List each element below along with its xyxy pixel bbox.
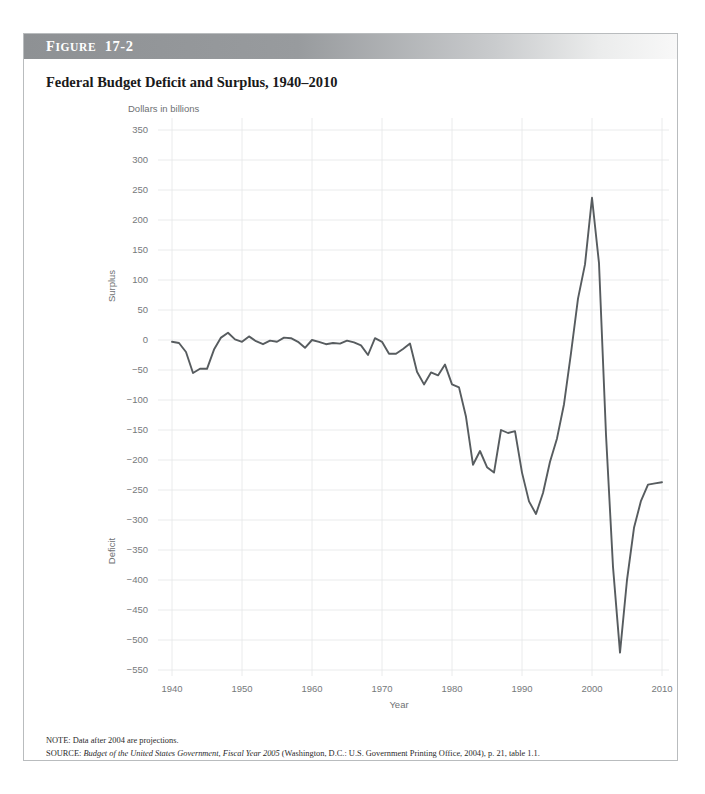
source-title: Budget of the United States Government, … <box>83 749 279 758</box>
source-rest: (Washington, D.C.: U.S. Government Print… <box>280 749 540 758</box>
x-tick-label: 1950 <box>231 683 252 694</box>
y-tick-label: −200 <box>127 454 148 465</box>
y-tick-label: −450 <box>127 604 148 615</box>
y-tick-label: −500 <box>127 634 148 645</box>
y-tick-label: 300 <box>132 154 148 165</box>
x-tick-label: 1990 <box>511 683 532 694</box>
figure-footnotes: NOTE: Data after 2004 are projections. S… <box>46 734 656 760</box>
y-tick-label: 350 <box>132 124 148 135</box>
vertical-gridlines <box>172 118 662 676</box>
figure-word-igure: IGURE <box>55 41 96 53</box>
x-tick-label: 2000 <box>581 683 602 694</box>
x-axis-tick-labels: 19401950196019701980199020002010 <box>161 683 672 694</box>
y-tick-label: 200 <box>132 214 148 225</box>
x-axis-title: Year <box>389 699 408 710</box>
x-tick-label: 1970 <box>371 683 392 694</box>
y-tick-label: −100 <box>127 394 148 405</box>
y-tick-label: −400 <box>127 574 148 585</box>
y-tick-label: 150 <box>132 244 148 255</box>
source-prefix: SOURCE: <box>46 749 83 758</box>
x-tick-label: 1960 <box>301 683 322 694</box>
y-axis-surplus-label: Surplus <box>106 270 117 302</box>
x-tick-label: 2010 <box>651 683 672 694</box>
figure-title: Federal Budget Deficit and Surplus, 1940… <box>46 74 338 91</box>
y-tick-label: −250 <box>127 484 148 495</box>
figure-frame: FIGURE 17-2 Federal Budget Deficit and S… <box>23 33 678 761</box>
chart-plot-area: Dollars in billions 35030025020015010050… <box>24 96 677 716</box>
y-tick-label: −300 <box>127 514 148 525</box>
budget-deficit-surplus-line-chart: Dollars in billions 35030025020015010050… <box>24 96 677 716</box>
figure-number-label: FIGURE 17-2 <box>46 38 134 55</box>
figure-note: NOTE: Data after 2004 are projections. <box>46 734 656 747</box>
y-tick-label: 100 <box>132 274 148 285</box>
y-tick-label: −50 <box>132 364 148 375</box>
y-tick-label: −350 <box>127 544 148 555</box>
y-tick-label: 0 <box>143 334 148 345</box>
y-tick-label: 250 <box>132 184 148 195</box>
figure-number-value: 17-2 <box>105 38 134 54</box>
figure-header-band: FIGURE 17-2 <box>24 34 677 59</box>
figure-source: SOURCE: Budget of the United States Gove… <box>46 747 656 760</box>
y-axis-tick-labels: 350300250200150100500−50−100−150−200−250… <box>127 124 148 675</box>
budget-balance-line <box>172 198 662 653</box>
y-axis-deficit-label: Deficit <box>106 537 117 564</box>
x-tick-label: 1980 <box>441 683 462 694</box>
y-tick-label: −150 <box>127 424 148 435</box>
y-tick-label: −550 <box>127 664 148 675</box>
x-tick-label: 1940 <box>161 683 182 694</box>
y-axis-unit-label: Dollars in billions <box>128 103 200 114</box>
y-tick-label: 50 <box>137 304 148 315</box>
